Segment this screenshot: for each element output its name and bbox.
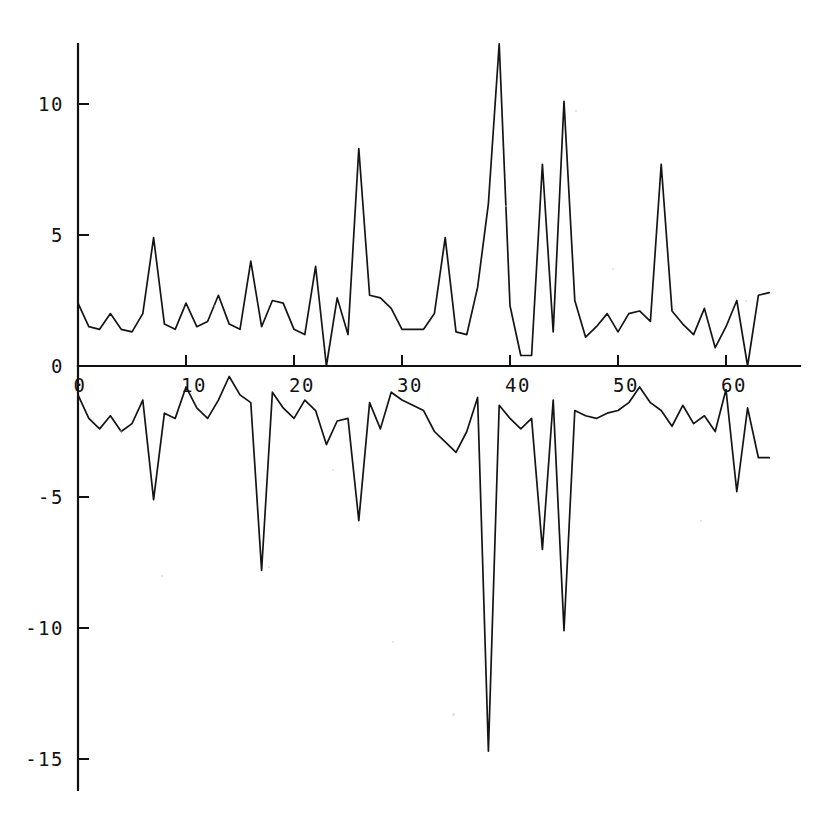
y-tick-label: -15 [25, 748, 64, 770]
x-tick-label: 20 [289, 374, 315, 396]
x-tick-labels: 0102030405060 [74, 374, 747, 396]
y-tick-label: 10 [38, 93, 64, 115]
x-tick-label: 30 [397, 374, 423, 396]
x-tick-label: 10 [181, 374, 207, 396]
y-tick-group [78, 104, 89, 759]
x-tick-label: 60 [721, 374, 747, 396]
chart-container: 1050-5-10-15 0102030405060 [0, 0, 821, 815]
x-tick-label: 40 [505, 374, 531, 396]
x-tick-label: 50 [613, 374, 639, 396]
y-tick-label: 0 [51, 355, 64, 377]
y-tick-label: -5 [38, 486, 64, 508]
series-line-upper [78, 44, 769, 366]
y-tick-labels: 1050-5-10-15 [25, 93, 64, 770]
y-tick-label: -10 [25, 617, 64, 639]
x-tick-group [186, 355, 726, 366]
series-group [78, 44, 769, 751]
series-line-lower [78, 376, 769, 751]
x-tick-label: 0 [74, 374, 87, 396]
axes-group [78, 44, 800, 790]
line-chart-svg: 1050-5-10-15 0102030405060 [0, 0, 821, 815]
y-tick-label: 5 [51, 224, 64, 246]
